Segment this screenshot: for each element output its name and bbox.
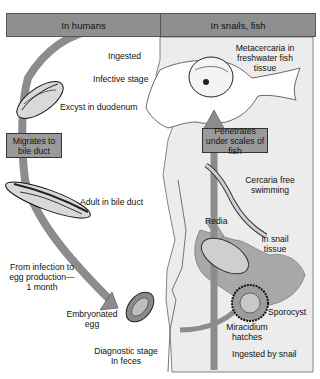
human-cycle-arrow (22, 30, 110, 300)
box-migrates-label: Migrates to bile duct (7, 136, 61, 156)
label-cercaria: Cercaria free swimming (240, 175, 300, 195)
label-diagnostic-stage: Diagnostic stage In feces (90, 346, 162, 366)
header-in-snails-fish: In snails, fish (160, 13, 316, 37)
label-sporocyst: Sporocyst (268, 307, 306, 317)
label-metacercaria: Metacercaria in freshwater fish tissue (226, 43, 304, 73)
box-migrates-to-bile-duct: Migrates to bile duct (6, 133, 62, 158)
label-infective-stage: Infective stage (93, 74, 148, 84)
label-adult-bile-duct: Adult in bile duct (80, 197, 143, 207)
box-penetrates-label: Penetrates under scales of fish (203, 126, 267, 156)
label-infection-timing: From infection to egg production— 1 mont… (6, 262, 78, 292)
clonorchis-life-cycle-diagram: In humans In snails, fish Ingested Infec… (0, 0, 320, 379)
label-ingested-by-snail: Ingested by snail (232, 349, 297, 359)
label-embryonated-egg: Embryonated egg (62, 309, 122, 329)
label-excyst-duodenum: Excyst in duodenum (60, 102, 137, 112)
header-in-snails-fish-label: In snails, fish (211, 20, 266, 31)
header-in-humans: In humans (6, 13, 161, 37)
excysted-larva (11, 75, 69, 126)
label-in-snail-tissue: In snail tissue (257, 234, 293, 254)
label-redia: Redia (205, 216, 227, 226)
header-in-humans-label: In humans (61, 20, 105, 31)
box-penetrates-scales: Penetrates under scales of fish (202, 128, 268, 153)
label-miracidium-hatches: Miracidium hatches (222, 322, 272, 342)
label-ingested: Ingested (108, 51, 141, 61)
